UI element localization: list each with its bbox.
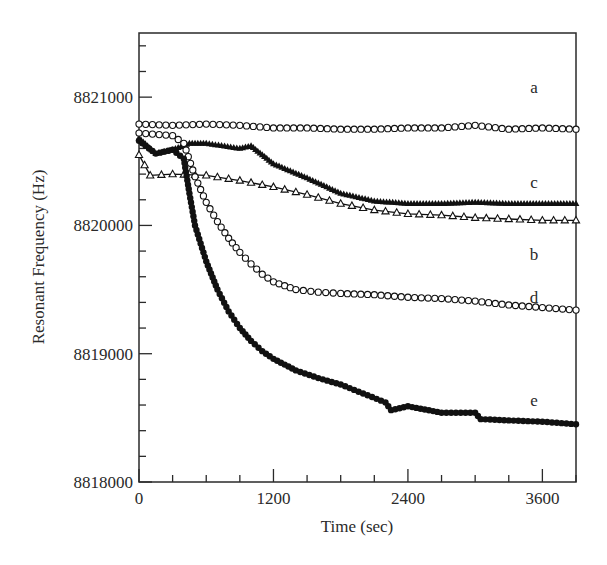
series-label-b: b bbox=[530, 245, 539, 264]
y-axis-title: Resonant Frequency (Hz) bbox=[29, 170, 48, 345]
series-label-e: e bbox=[530, 391, 538, 410]
series-label-a: a bbox=[530, 78, 538, 97]
y-tick-label: 8820000 bbox=[74, 216, 134, 235]
series-label-c: c bbox=[530, 173, 538, 192]
y-axis-ticks: 8818000881900088200008821000 bbox=[74, 46, 153, 492]
y-tick-label: 8821000 bbox=[74, 88, 134, 107]
y-tick-label: 8818000 bbox=[74, 473, 134, 492]
x-tick-label: 0 bbox=[135, 489, 144, 508]
x-axis-ticks: 0120024003600 bbox=[135, 469, 576, 508]
x-tick-label: 1200 bbox=[256, 489, 290, 508]
chart: 0120024003600 88180008819000882000088210… bbox=[0, 0, 607, 565]
y-tick-label: 8819000 bbox=[74, 345, 134, 364]
x-axis-title: Time (sec) bbox=[321, 517, 394, 536]
x-tick-label: 3600 bbox=[525, 489, 559, 508]
series-layer bbox=[135, 121, 579, 427]
series-e bbox=[136, 138, 579, 428]
series-a bbox=[136, 121, 579, 132]
x-tick-label: 2400 bbox=[391, 489, 425, 508]
series-label-d: d bbox=[530, 288, 539, 307]
